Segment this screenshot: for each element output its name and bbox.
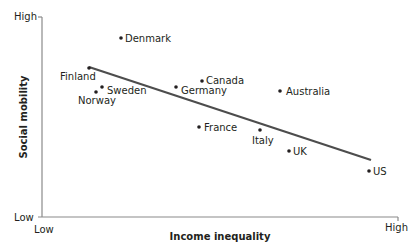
label-us: US <box>373 166 387 177</box>
point-sweden <box>100 85 104 89</box>
y-axis-low-label: Low <box>14 212 34 223</box>
point-us <box>367 169 371 173</box>
axes <box>38 17 398 221</box>
scatter-chart: High Low Low High Income inequality Soci… <box>0 0 419 247</box>
point-germany <box>174 85 178 89</box>
label-germany: Germany <box>181 85 227 96</box>
y-axis-title: Social mobility <box>18 75 29 159</box>
label-france: France <box>204 122 237 133</box>
label-canada: Canada <box>206 75 244 86</box>
y-axis-high-label: High <box>14 11 37 22</box>
label-finland: Finland <box>60 71 96 82</box>
label-uk: UK <box>293 146 307 157</box>
point-labels: Denmark Finland Sweden Norway Germany Ca… <box>60 33 387 177</box>
label-australia: Australia <box>286 86 330 97</box>
point-france <box>197 125 201 129</box>
x-axis-low-label: Low <box>34 224 54 235</box>
data-points <box>87 36 371 173</box>
label-norway: Norway <box>78 95 116 106</box>
x-axis-high-label: High <box>385 222 408 233</box>
point-finland <box>87 66 91 70</box>
point-canada <box>200 79 204 83</box>
x-axis-title: Income inequality <box>170 231 271 242</box>
label-italy: Italy <box>252 135 274 146</box>
point-denmark <box>119 36 123 40</box>
point-italy <box>258 128 262 132</box>
point-uk <box>287 149 291 153</box>
point-norway <box>94 90 98 94</box>
point-australia <box>278 89 282 93</box>
label-denmark: Denmark <box>125 33 171 44</box>
